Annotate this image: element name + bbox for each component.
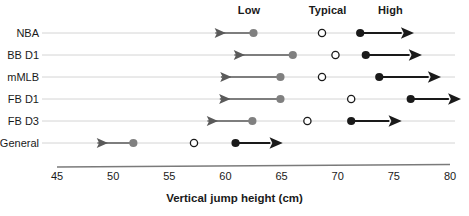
xtick-75: 75 xyxy=(388,170,400,182)
datapoint-low-mmlb xyxy=(276,73,284,81)
datapoint-typical-mmlb xyxy=(318,73,325,80)
datapoint-high-mmlb xyxy=(375,73,383,81)
datapoint-high-bb-d1 xyxy=(362,51,370,59)
marker-group xyxy=(129,29,415,147)
x-axis-line xyxy=(57,165,450,168)
xtick-65: 65 xyxy=(275,170,287,182)
datapoint-typical-general xyxy=(190,139,197,146)
datapoint-typical-nba xyxy=(318,29,325,36)
xtick-55: 55 xyxy=(163,170,175,182)
datapoint-typical-fb-d3 xyxy=(304,117,311,124)
xtick-45: 45 xyxy=(51,170,63,182)
datapoint-high-fb-d1 xyxy=(407,95,415,103)
gridlines xyxy=(42,33,455,143)
xtick-50: 50 xyxy=(107,170,119,182)
xtick-70: 70 xyxy=(332,170,344,182)
x-axis-rule xyxy=(57,165,450,168)
x-axis-title: Vertical jump height (cm) xyxy=(0,192,469,204)
vertical-jump-height-chart: Low Typical High NBA BB D1 mMLB FB D1 FB… xyxy=(0,0,469,216)
arrow-group xyxy=(97,33,448,143)
xtick-60: 60 xyxy=(219,170,231,182)
datapoint-low-general xyxy=(129,139,137,147)
datapoint-high-nba xyxy=(356,29,364,37)
datapoint-typical-bb-d1 xyxy=(332,51,339,58)
plot-area xyxy=(0,0,469,216)
datapoint-high-general xyxy=(231,139,239,147)
datapoint-low-fb-d3 xyxy=(248,117,256,125)
datapoint-low-fb-d1 xyxy=(276,95,284,103)
datapoint-low-bb-d1 xyxy=(289,51,297,59)
datapoint-typical-fb-d1 xyxy=(348,95,355,102)
xtick-80: 80 xyxy=(444,170,456,182)
datapoint-high-fb-d3 xyxy=(347,117,355,125)
datapoint-low-nba xyxy=(249,29,257,37)
